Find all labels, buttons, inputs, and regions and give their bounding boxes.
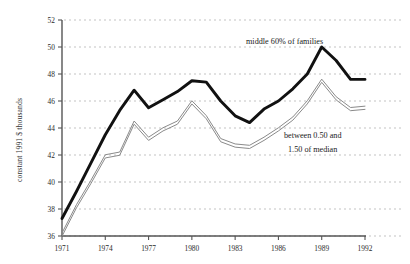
annotation-middle-60-label: middle 60% of families bbox=[246, 37, 323, 46]
y-axis-title: constant 1991 $ thousands bbox=[15, 98, 24, 182]
y-axis-tick-label: 50 bbox=[48, 43, 56, 52]
x-axis-tick-label: 1974 bbox=[98, 244, 113, 253]
x-axis-tick-label: 1971 bbox=[55, 244, 70, 253]
annotation-between-median-line2: 1.50 of median bbox=[288, 145, 337, 154]
y-axis-tick-labels: 363840424446485052 bbox=[48, 16, 56, 241]
annotation-between-median-line1: between 0.50 and bbox=[284, 131, 342, 140]
x-axis-tick-label: 1989 bbox=[314, 244, 329, 253]
chart-container: 363840424446485052 197119741977198019831… bbox=[0, 0, 410, 264]
y-axis-tick-label: 48 bbox=[48, 70, 56, 79]
y-axis-tick-label: 46 bbox=[48, 97, 56, 106]
x-axis-tick-label: 1980 bbox=[184, 244, 199, 253]
y-axis-tick-label: 42 bbox=[48, 151, 56, 160]
x-axis-tick-label: 1983 bbox=[228, 244, 243, 253]
y-axis-tick-label: 52 bbox=[48, 16, 56, 25]
y-axis-tick-label: 38 bbox=[48, 205, 56, 214]
income-trend-line-chart: 363840424446485052 197119741977198019831… bbox=[0, 0, 410, 264]
y-axis-tick-label: 44 bbox=[48, 124, 56, 133]
x-axis-tick-label: 1992 bbox=[358, 244, 373, 253]
x-axis-tick-label: 1977 bbox=[141, 244, 156, 253]
y-axis-tick-label: 36 bbox=[48, 232, 56, 241]
y-axis-tick-label: 40 bbox=[48, 178, 56, 187]
x-axis-tick-label: 1986 bbox=[271, 244, 286, 253]
